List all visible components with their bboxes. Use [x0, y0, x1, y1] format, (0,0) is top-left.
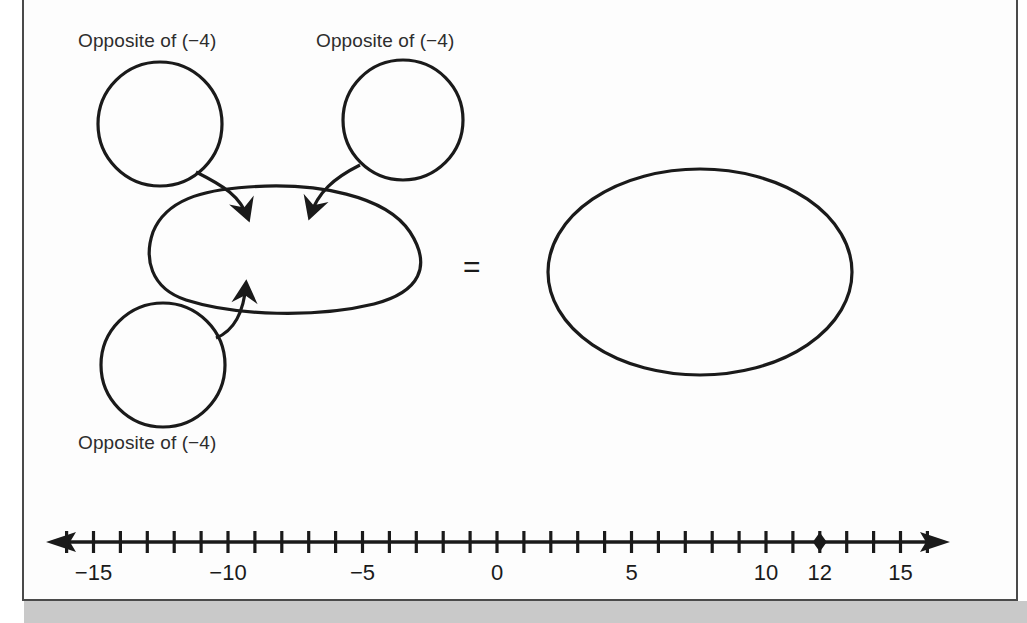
- axis-tick-label: −15: [75, 560, 112, 586]
- result-ellipse[interactable]: [548, 169, 852, 375]
- axis-tick-label: 15: [888, 560, 912, 586]
- bubble-label-top-right: Opposite of (−4): [316, 30, 454, 52]
- axis-tick-label: −10: [209, 560, 246, 586]
- axis-tick-label: 5: [625, 560, 637, 586]
- axis-tick-label: −5: [350, 560, 375, 586]
- bubble-label-bottom-left: Opposite of (−4): [78, 432, 216, 454]
- number-line-points: [814, 534, 826, 550]
- axis-tick-label: 12: [808, 560, 832, 586]
- equals-sign: =: [463, 252, 481, 282]
- number-line: [46, 531, 950, 553]
- input-bubble-top-right[interactable]: [343, 60, 463, 180]
- plotted-point-marker[interactable]: [814, 534, 826, 550]
- axis-tick-label: 10: [754, 560, 778, 586]
- bubble-label-top-left: Opposite of (−4): [78, 30, 216, 52]
- diagram-canvas: [0, 0, 1027, 623]
- input-bubble-bottom-left[interactable]: [101, 303, 225, 427]
- axis-tick-label: 0: [491, 560, 503, 586]
- center-blob[interactable]: [149, 186, 420, 313]
- worksheet-page: Opposite of (−4) Opposite of (−4) Opposi…: [0, 0, 1027, 623]
- input-bubble-top-left[interactable]: [98, 62, 222, 186]
